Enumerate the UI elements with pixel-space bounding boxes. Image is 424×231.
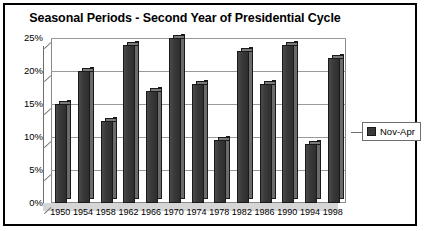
- y-axis-tick-label: 20%: [24, 65, 43, 76]
- chart-title: Seasonal Periods - Second Year of Presid…: [5, 11, 365, 25]
- bar-top-face: [127, 42, 139, 46]
- x-axis-tick-label: 1998: [321, 207, 344, 217]
- bar-top-face: [196, 81, 208, 85]
- x-axis-tick-label: 1974: [185, 207, 208, 217]
- bar[interactable]: [237, 51, 249, 203]
- bar[interactable]: [78, 71, 90, 203]
- x-axis-tick-label: 1966: [140, 207, 163, 217]
- x-axis-tick-label: 1990: [276, 207, 299, 217]
- bar[interactable]: [146, 91, 158, 203]
- bar[interactable]: [214, 140, 226, 203]
- bar[interactable]: [192, 84, 204, 203]
- y-axis-tick-label: 5%: [29, 164, 43, 175]
- bar-side-face: [249, 47, 253, 199]
- bar[interactable]: [328, 58, 340, 203]
- bar-side-face: [317, 140, 321, 199]
- bar-side-face: [272, 80, 276, 199]
- legend-label-nov-apr: Nov-Apr: [380, 126, 415, 137]
- x-axis-tick-label: 1970: [162, 207, 185, 217]
- legend-swatch-nov-apr: [367, 127, 376, 136]
- x-axis-tick-label: 1962: [117, 207, 140, 217]
- bar-front-face: [328, 58, 340, 203]
- bar-front-face: [192, 84, 204, 203]
- x-axis-tick-label: 1978: [208, 207, 231, 217]
- bar-side-face: [226, 136, 230, 199]
- bar-top-face: [332, 55, 344, 59]
- bar-top-face: [105, 118, 117, 122]
- x-axis-tick-label: 1950: [49, 207, 72, 217]
- bar-top-face: [241, 48, 253, 52]
- y-axis-labels: 25%20%15%10%5%0%: [5, 38, 47, 208]
- bar-front-face: [305, 144, 317, 203]
- bar-front-face: [55, 104, 67, 203]
- bar-top-face: [150, 88, 162, 92]
- x-axis-tick-label: 1994: [299, 207, 322, 217]
- bar-front-face: [282, 45, 294, 203]
- bar-top-face: [264, 81, 276, 85]
- bar-front-face: [146, 91, 158, 203]
- x-axis-tick-label: 1958: [94, 207, 117, 217]
- bar-front-face: [260, 84, 272, 203]
- bar-front-face: [237, 51, 249, 203]
- bar[interactable]: [101, 121, 113, 204]
- bar-top-face: [82, 68, 94, 72]
- bar-side-face: [135, 41, 139, 199]
- bar-top-face: [309, 141, 321, 145]
- bar-side-face: [158, 87, 162, 199]
- x-axis-tick-label: 1982: [231, 207, 254, 217]
- y-axis-line: [43, 46, 44, 211]
- y-axis-tick-label: 25%: [24, 32, 43, 43]
- bar[interactable]: [123, 45, 135, 203]
- chart-frame: Seasonal Periods - Second Year of Presid…: [3, 3, 417, 226]
- bar[interactable]: [305, 144, 317, 203]
- y-axis-tick-label: 15%: [24, 98, 43, 109]
- bar-front-face: [101, 121, 113, 204]
- bar-side-face: [67, 100, 71, 199]
- gridline: [51, 38, 346, 39]
- bar-front-face: [214, 140, 226, 203]
- legend-connector: [351, 132, 362, 133]
- plot-area: [51, 38, 346, 203]
- bar-top-face: [59, 101, 71, 105]
- bar-front-face: [123, 45, 135, 203]
- chart-legend[interactable]: Nov-Apr: [362, 122, 421, 141]
- bar[interactable]: [169, 38, 181, 203]
- bar[interactable]: [282, 45, 294, 203]
- x-axis-tick-label: 1986: [253, 207, 276, 217]
- gridline: [51, 71, 346, 72]
- bar-side-face: [90, 67, 94, 199]
- bar-top-face: [286, 42, 298, 46]
- bar-side-face: [294, 41, 298, 199]
- y-axis-tick-label: 10%: [24, 131, 43, 142]
- bar-side-face: [340, 54, 344, 199]
- x-axis-labels: 1950195419581962196619701974197819821986…: [51, 207, 351, 221]
- bar[interactable]: [55, 104, 67, 203]
- bar-front-face: [78, 71, 90, 203]
- y-axis-tick-label: 0%: [29, 197, 43, 208]
- bar-top-face: [218, 137, 230, 141]
- bar-side-face: [204, 80, 208, 199]
- bar-front-face: [169, 38, 181, 203]
- bar-side-face: [113, 117, 117, 200]
- bar-side-face: [181, 34, 185, 199]
- x-axis-tick-label: 1954: [72, 207, 95, 217]
- bar[interactable]: [260, 84, 272, 203]
- bar-top-face: [173, 35, 185, 39]
